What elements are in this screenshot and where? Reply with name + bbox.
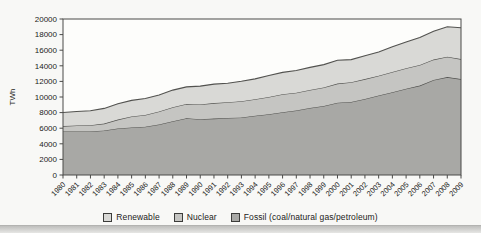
legend-item-renewable: Renewable	[103, 212, 159, 222]
y-tick-label: 10000	[35, 93, 58, 102]
legend-item-nuclear: Nuclear	[174, 212, 217, 222]
page-edge-strip	[0, 225, 481, 233]
legend-item-fossil: Fossil (coal/natural gas/petroleum)	[231, 212, 378, 222]
y-tick-label: 0	[53, 171, 58, 180]
legend-swatch-renewable-icon	[103, 213, 112, 222]
legend-label-nuclear: Nuclear	[187, 212, 217, 222]
y-tick-label: 18000	[35, 30, 58, 39]
y-tick-label: 14000	[35, 62, 58, 71]
chart-legend: Renewable Nuclear Fossil (coal/natural g…	[0, 210, 481, 224]
stacked-area-chart: 0200040006000800010000120001400016000180…	[0, 0, 481, 233]
legend-swatch-fossil-icon	[231, 213, 240, 222]
legend-label-renewable: Renewable	[116, 212, 159, 222]
electricity-generation-figure: 0200040006000800010000120001400016000180…	[0, 0, 481, 233]
y-tick-label: 4000	[39, 140, 57, 149]
y-axis-title: TWh	[8, 89, 17, 106]
y-tick-label: 2000	[39, 155, 57, 164]
legend-swatch-nuclear-icon	[174, 213, 183, 222]
y-tick-label: 16000	[35, 46, 58, 55]
y-tick-label: 6000	[39, 124, 57, 133]
y-tick-label: 20000	[35, 15, 58, 24]
y-tick-label: 8000	[39, 108, 57, 117]
y-tick-label: 12000	[35, 77, 58, 86]
x-tick-label: 2009	[447, 180, 465, 198]
legend-label-fossil: Fossil (coal/natural gas/petroleum)	[244, 212, 378, 222]
